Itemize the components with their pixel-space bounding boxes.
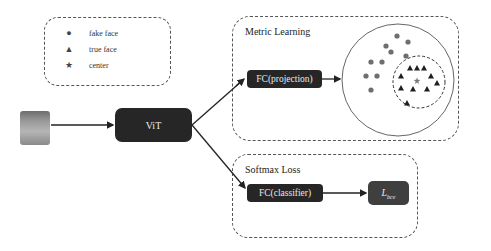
true-face-point	[434, 80, 440, 86]
fake-face-point	[394, 33, 399, 38]
embedding-space	[342, 24, 454, 136]
center-star-icon	[414, 77, 421, 84]
fake-face-point	[374, 73, 379, 78]
diagram-connectors	[0, 0, 491, 251]
arrow-vit-to-softmax	[192, 125, 245, 188]
fake-face-point	[368, 87, 373, 92]
true-face-point	[398, 85, 404, 91]
true-face-point	[398, 73, 404, 79]
fake-face-point	[368, 59, 373, 64]
arrow-vit-to-metric	[192, 80, 243, 125]
true-face-point	[407, 65, 413, 71]
true-face-point	[414, 65, 420, 71]
true-face-point	[404, 100, 410, 106]
fake-face-point	[363, 73, 368, 78]
fake-face-point	[379, 59, 384, 64]
true-face-point	[421, 65, 427, 71]
fake-face-point	[403, 53, 408, 58]
true-face-point	[410, 86, 416, 92]
outer-circle	[342, 24, 454, 136]
fake-face-point	[405, 39, 410, 44]
fake-face-point	[388, 49, 393, 54]
true-face-point	[424, 86, 430, 92]
fake-face-point	[383, 43, 388, 48]
true-face-point	[428, 73, 434, 79]
